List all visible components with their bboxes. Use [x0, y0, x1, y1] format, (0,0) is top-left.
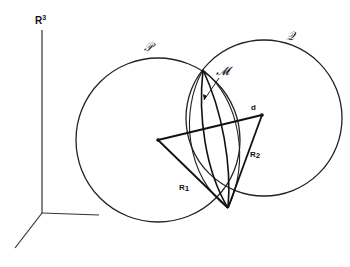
segment-d-label: d — [251, 103, 256, 112]
sphere-p-label: 𝒫 — [144, 40, 156, 54]
segment-r2-label: R2 — [250, 150, 261, 160]
diagram-canvas: R3 𝒫 𝒬 𝓜 d R1 R2 — [0, 0, 350, 267]
coordinate-axes — [15, 30, 99, 248]
intersection-label: 𝓜 — [216, 64, 233, 78]
segment-d — [158, 115, 262, 140]
sphere-q-label: 𝒬 — [286, 29, 297, 43]
center-q-point — [260, 113, 264, 117]
axis-diagonal — [15, 213, 42, 248]
intersection-pointer — [203, 78, 219, 100]
segment-r1-label: R1 — [179, 183, 190, 193]
axis-horizontal — [42, 213, 99, 215]
center-p-point — [156, 138, 160, 142]
sphere-q — [186, 40, 342, 196]
intersection-lens — [189, 70, 239, 208]
space-label: R3 — [35, 14, 46, 26]
